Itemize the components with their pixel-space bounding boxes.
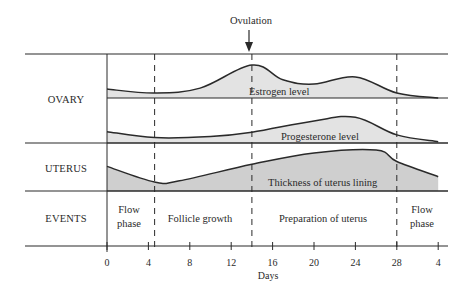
event-flow-phase-end-line2: phase: [410, 218, 434, 229]
x-tick-label: 0: [105, 257, 110, 268]
progesterone-area: [107, 116, 438, 143]
row-label-uterus: UTERUS: [45, 163, 87, 174]
x-axis-label: Days: [258, 270, 279, 281]
uterus-lining-label: Thickness of uterus lining: [268, 177, 378, 188]
event-follicle-growth: Follicle growth: [168, 213, 233, 224]
curves-layer: [107, 65, 448, 191]
menstrual-cycle-diagram: 04812162024284 OVARY UTERUS EVENTS Estro…: [0, 0, 472, 293]
x-tick-label: 8: [187, 257, 192, 268]
event-preparation-of-uterus: Preparation of uterus: [279, 213, 367, 224]
event-flow-phase-end-line1: Flow: [411, 204, 433, 215]
x-tick-label: 12: [226, 257, 236, 268]
ovulation-arrow-icon: [245, 30, 253, 52]
x-tick-label: 20: [309, 257, 319, 268]
x-tick-label: 4: [436, 257, 441, 268]
row-label-events: EVENTS: [45, 213, 86, 224]
x-tick-label: 28: [392, 257, 402, 268]
x-tick-label: 4: [146, 257, 151, 268]
event-flow-phase-start-line1: Flow: [118, 204, 140, 215]
progesterone-label: Progesterone level: [281, 131, 359, 142]
x-tick-label: 16: [268, 257, 278, 268]
diagram-canvas: 04812162024284 OVARY UTERUS EVENTS Estro…: [0, 0, 472, 293]
row-label-ovary: OVARY: [48, 94, 85, 105]
event-flow-phase-start-line2: phase: [117, 218, 141, 229]
x-tick-label: 24: [350, 257, 360, 268]
estrogen-label: Estrogen level: [249, 86, 309, 97]
ovulation-label: Ovulation: [230, 15, 273, 26]
